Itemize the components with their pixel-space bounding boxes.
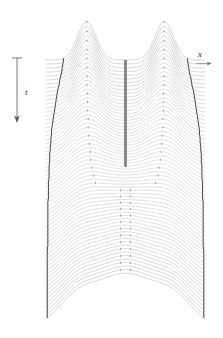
wave-trace bbox=[46, 187, 205, 216]
central-trough-envelope bbox=[125, 60, 126, 166]
wave-trace bbox=[46, 27, 205, 64]
wave-trace bbox=[46, 148, 205, 176]
wave-trace bbox=[46, 140, 205, 168]
wave-trace bbox=[46, 273, 205, 320]
envelope-group bbox=[47, 58, 204, 318]
wave-trace bbox=[46, 54, 205, 88]
wave-trace bbox=[46, 22, 205, 60]
wave-trace bbox=[46, 245, 205, 288]
wave-trace bbox=[46, 89, 205, 120]
wave-trace bbox=[46, 203, 205, 236]
space-arrow bbox=[196, 62, 212, 66]
space-axis-label: x bbox=[198, 50, 202, 59]
wave-trace bbox=[46, 200, 205, 233]
wave-trace bbox=[46, 81, 205, 112]
wave-trace bbox=[46, 252, 205, 296]
plot-canvas bbox=[0, 0, 223, 338]
wave-trace bbox=[46, 106, 205, 136]
wave-trace bbox=[46, 179, 205, 208]
wave-trace bbox=[46, 123, 205, 152]
wave-trace bbox=[46, 31, 205, 68]
wave-trace bbox=[46, 212, 205, 248]
time-axis-label: t bbox=[25, 88, 28, 97]
wave-trace bbox=[46, 242, 205, 284]
wave-trace bbox=[46, 249, 205, 292]
wave-trace bbox=[46, 144, 205, 172]
wave-trace bbox=[46, 45, 205, 80]
wave-trace-group bbox=[46, 22, 205, 320]
waterfall-figure: t x bbox=[0, 0, 223, 338]
wave-trace bbox=[46, 94, 205, 124]
time-arrow bbox=[12, 58, 22, 123]
